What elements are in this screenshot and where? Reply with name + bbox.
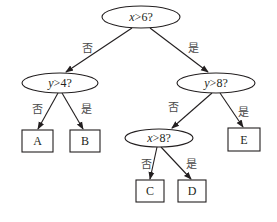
node-root: x>6? [102,6,180,28]
leaf-D: D [178,180,206,202]
node-right-left: x>8? [125,129,193,147]
node-right-left-label: x>8? [146,131,170,145]
edge-label-root-no: 否 [82,42,93,55]
node-root-label: x>6? [128,10,152,24]
leaf-E-label: E [240,133,247,147]
node-right-label: y>8? [203,76,227,90]
leaf-B-label: B [81,134,89,148]
edge-label-root-yes: 是 [188,42,199,55]
edge-root-to-right [150,28,208,72]
edge-label-right-no: 否 [168,101,179,114]
edges [38,28,243,179]
edge-label-right-yes: 是 [238,106,249,119]
edge-label-left-no: 否 [32,103,43,116]
edge-label-right-left-no: 否 [141,158,152,171]
edge-label-right-left-yes: 是 [186,158,197,171]
leaf-C-label: C [146,184,154,198]
leaf-A: A [22,130,53,152]
node-left: y>4? [22,73,98,93]
edge-root-to-left [66,28,132,72]
leaf-C: C [136,180,164,202]
decision-tree-diagram: x>6? y>4? y>8? x>8? A B E C D 否 是 否 是 否 … [0,0,277,222]
node-left-label: y>4? [47,76,71,90]
leaf-B: B [70,130,100,152]
leaf-A-label: A [33,134,42,148]
edge-label-left-yes: 是 [81,103,92,116]
leaf-D-label: D [188,184,197,198]
node-right: y>8? [177,73,255,93]
leaf-E: E [228,128,260,151]
